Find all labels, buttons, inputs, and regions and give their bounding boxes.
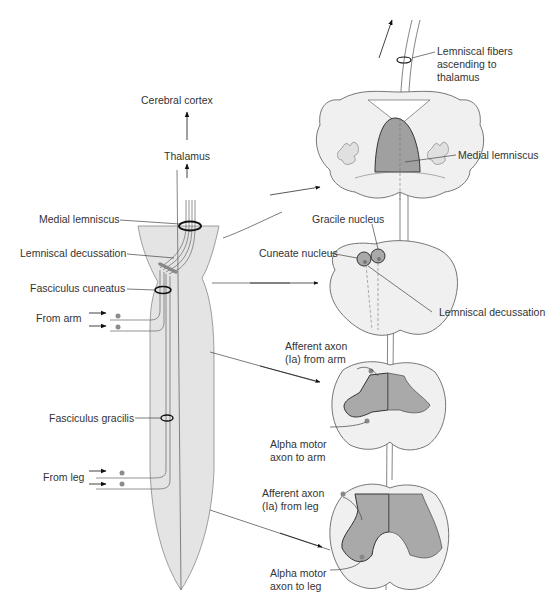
label-cuneate-nucleus: Cuneate nucleus <box>259 247 338 260</box>
label-fasciculus-gracilis: Fasciculus gracilis <box>49 412 134 425</box>
cuneate-nucleus <box>357 252 371 266</box>
section-pons <box>316 91 483 200</box>
label-alpha-motor-arm: Alpha motor axon to arm <box>270 438 340 464</box>
label-lemniscal-fibers: Lemniscal fibers ascending to thalamus <box>437 45 537 84</box>
label-afferent-leg: Afferent axon (Ia) from leg <box>262 487 332 513</box>
section-lumbar <box>330 484 449 589</box>
label-thalamus: Thalamus <box>164 150 210 163</box>
gracile-nucleus <box>371 249 385 263</box>
label-medial-lemniscus-right: Medial lemniscus <box>458 149 539 162</box>
section-cervical <box>330 362 446 450</box>
label-afferent-arm: Afferent axon (Ia) from arm <box>285 340 365 366</box>
label-medial-lemniscus-left: Medial lemniscus <box>39 213 120 226</box>
label-gracile-nucleus: Gracile nucleus <box>312 213 384 226</box>
label-alpha-motor-leg: Alpha motor axon to leg <box>270 567 340 593</box>
label-lemniscal-decussation-left: Lemniscal decussation <box>20 247 126 260</box>
label-fasciculus-cuneatus: Fasciculus cuneatus <box>30 282 125 295</box>
label-cerebral-cortex: Cerebral cortex <box>141 94 213 107</box>
label-from-leg: From leg <box>43 471 84 484</box>
label-from-arm: From arm <box>36 312 82 325</box>
pathway-diagram <box>0 0 557 606</box>
label-lemniscal-decussation-right: Lemniscal decussation <box>439 306 545 319</box>
